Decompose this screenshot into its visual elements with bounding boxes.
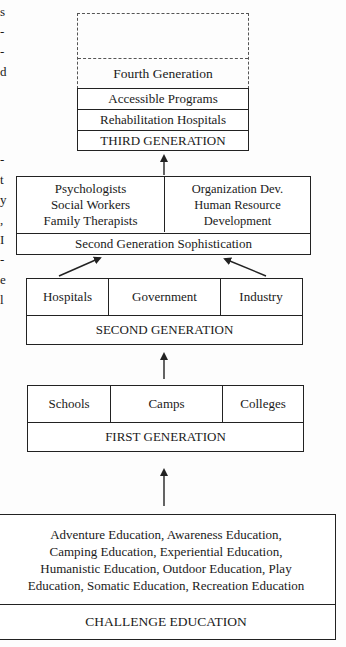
arrows-layer: [0, 0, 346, 647]
arrow-diagonal-icon: [59, 258, 100, 276]
arrow-diagonal-icon: [225, 259, 266, 276]
